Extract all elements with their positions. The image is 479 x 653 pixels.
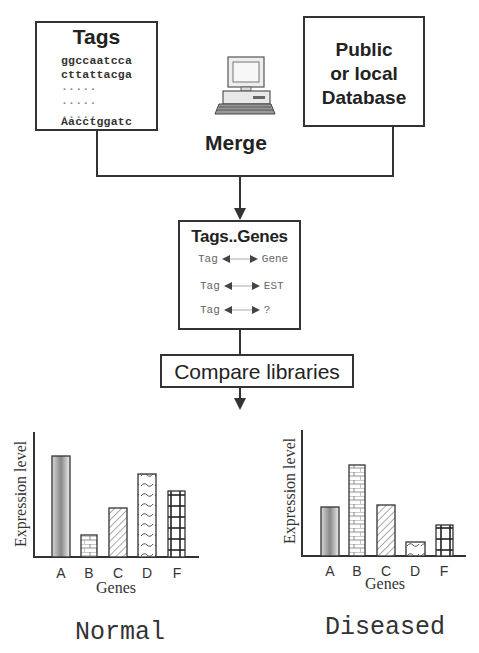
- normal-xlabel: Genes: [96, 579, 136, 597]
- normal-xtick: A: [51, 565, 71, 581]
- bar-normal-F: [168, 491, 185, 557]
- normal-xtick: F: [167, 565, 187, 581]
- diseased-chart-title: Diseased: [325, 613, 445, 642]
- normal-xtick: D: [137, 565, 157, 581]
- normal-chart: [33, 432, 199, 558]
- bar-diseased-B: [349, 465, 365, 556]
- diseased-xtick: A: [320, 563, 340, 579]
- diseased-chart: [301, 430, 466, 557]
- bar-diseased-D: [406, 542, 425, 556]
- bar-normal-D: [138, 474, 156, 557]
- normal-ylabel: Expression level: [12, 441, 30, 547]
- diseased-xtick: D: [405, 563, 425, 579]
- normal-chart-title: Normal: [75, 618, 165, 647]
- bar-normal-B: [81, 535, 97, 557]
- bar-normal-C: [109, 508, 127, 557]
- bar-diseased-C: [377, 505, 395, 556]
- bar-charts: [0, 0, 479, 653]
- diseased-xtick: B: [347, 563, 367, 579]
- bar-diseased-F: [436, 525, 453, 556]
- diseased-xlabel: Genes: [365, 575, 405, 593]
- bar-diseased-A: [321, 507, 339, 556]
- diseased-ylabel: Expression level: [281, 438, 299, 544]
- bar-normal-A: [52, 456, 70, 557]
- diseased-xtick: F: [434, 563, 454, 579]
